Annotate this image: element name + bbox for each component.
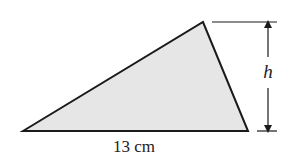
triangle-diagram: h 13 cm: [0, 0, 292, 158]
triangle-shape: [23, 22, 248, 131]
base-label: 13 cm: [113, 137, 155, 156]
height-label: h: [263, 61, 273, 82]
